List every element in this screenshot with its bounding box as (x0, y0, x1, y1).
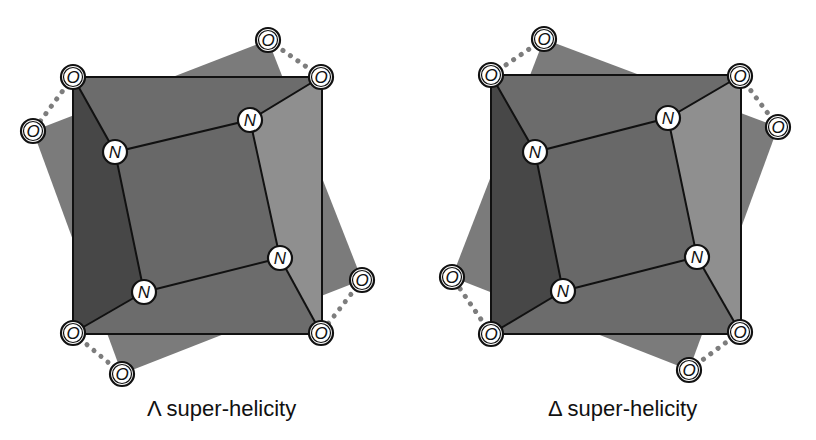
svg-text:O: O (733, 323, 746, 342)
nitrogen-atom: N (685, 245, 709, 269)
svg-text:O: O (26, 122, 39, 141)
svg-text:N: N (691, 248, 704, 267)
oxygen-atom: O (110, 362, 134, 386)
svg-text:N: N (244, 111, 257, 130)
svg-text:O: O (484, 325, 497, 344)
oxygen-atom: O (479, 63, 503, 87)
nitrogen-atom: N (238, 108, 262, 132)
lambda-panel: O O O O O O O O N N N N (21, 28, 374, 386)
nitrogen-atom: N (132, 280, 156, 304)
delta-panel: O O O O O O O O N N N N (440, 27, 790, 382)
nitrogen-atom: N (523, 140, 547, 164)
svg-text:N: N (274, 249, 287, 268)
oxygen-atom: O (309, 321, 333, 345)
svg-text:O: O (484, 66, 497, 85)
oxygen-atom: O (256, 28, 280, 52)
svg-text:N: N (557, 282, 570, 301)
svg-text:O: O (355, 271, 368, 290)
oxygen-atom: O (728, 64, 752, 88)
svg-text:N: N (662, 109, 675, 128)
oxygen-atom: O (440, 265, 464, 289)
delta-caption: Δ super-helicity (548, 396, 697, 422)
lambda-caption: Λ super-helicity (147, 396, 296, 422)
oxygen-atom: O (21, 119, 45, 143)
svg-text:N: N (138, 283, 151, 302)
oxygen-atom: O (61, 65, 85, 89)
nitrogen-atom: N (551, 279, 575, 303)
svg-text:N: N (109, 143, 122, 162)
svg-text:O: O (771, 118, 784, 137)
oxygen-atom: O (728, 320, 752, 344)
oxygen-atom: O (532, 27, 556, 51)
svg-text:N: N (529, 143, 542, 162)
svg-text:O: O (66, 68, 79, 87)
svg-text:O: O (733, 67, 746, 86)
nitrogen-atom: N (268, 246, 292, 270)
svg-text:O: O (537, 30, 550, 49)
svg-text:O: O (445, 268, 458, 287)
nitrogen-atom: N (656, 106, 680, 130)
oxygen-atom: O (479, 322, 503, 346)
oxygen-atom: O (350, 268, 374, 292)
oxygen-atom: O (766, 115, 790, 139)
svg-text:O: O (261, 31, 274, 50)
svg-text:O: O (682, 361, 695, 380)
oxygen-atom: O (677, 358, 701, 382)
oxygen-atom: O (309, 65, 333, 89)
svg-text:O: O (314, 324, 327, 343)
oxygen-atom: O (61, 321, 85, 345)
nitrogen-atom: N (103, 140, 127, 164)
svg-text:O: O (115, 365, 128, 384)
super-helicity-diagram: O O O O O O O O N N N N O O O O O O O O (0, 0, 816, 440)
svg-text:O: O (66, 324, 79, 343)
svg-text:O: O (314, 68, 327, 87)
